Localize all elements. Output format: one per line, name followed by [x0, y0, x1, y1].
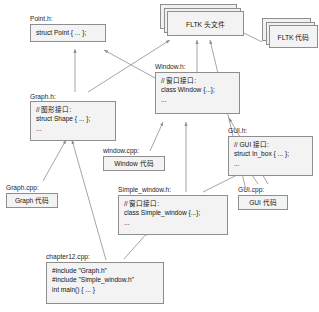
- simple-window-h-line-3: ...: [124, 218, 222, 227]
- fltk-headers-sheet-front: FLTK 头文件: [167, 11, 244, 36]
- chapter12-cpp-line-1: #include "Graph.h": [52, 266, 158, 275]
- gui-h-line-3: ...: [234, 159, 307, 168]
- gui-h-line-1: // GUI 接口:: [234, 140, 307, 149]
- gui-h-line-2: struct In_box { ... };: [234, 149, 307, 158]
- arrow-chapter12-to-graph-h: [72, 140, 106, 260]
- node-point-h[interactable]: struct Point { ... };: [30, 24, 106, 42]
- gui-cpp-line-1: GUI 代码: [249, 198, 277, 207]
- node-window-cpp[interactable]: Window 代码: [103, 156, 165, 171]
- simple-window-h-line-2: class Simple_window {...};: [124, 208, 222, 217]
- node-fltk-headers[interactable]: FLTK 头文件: [160, 4, 244, 36]
- caption-window-h: Window.h:: [155, 63, 186, 70]
- arrow-chapter12-to-simple-window-h: [124, 232, 148, 259]
- chapter12-cpp-line-3: int main() { ... }: [52, 285, 158, 294]
- window-h-line-3: ...: [161, 95, 234, 104]
- node-gui-h[interactable]: // GUI 接口: struct In_box { ... }; ...: [228, 136, 313, 176]
- caption-gui-cpp: GUI.cpp:: [238, 186, 264, 193]
- arrow-window-cpp-to-window-h: [150, 122, 163, 151]
- graph-h-line-2: struct Shape { ... };: [36, 114, 110, 123]
- fltk-code-sheet-front: FLTK 代码: [269, 25, 318, 48]
- node-fltk-code[interactable]: FLTK 代码: [262, 18, 318, 50]
- caption-window-cpp: window.cpp:: [103, 147, 139, 154]
- fltk-code-label: FLTK 代码: [277, 32, 309, 42]
- point-h-line-1: struct Point { ... };: [36, 28, 100, 37]
- node-gui-cpp[interactable]: GUI 代码: [238, 195, 288, 210]
- node-graph-h[interactable]: // 图形接口: struct Shape { ... }; ...: [30, 101, 116, 141]
- caption-simple-window-h: Simple_window.h:: [118, 186, 171, 193]
- caption-gui-h: GUI.h:: [228, 127, 247, 134]
- node-graph-cpp[interactable]: Graph 代码: [6, 193, 58, 208]
- node-chapter12-cpp[interactable]: #include "Graph.h" #include "Simple_wind…: [46, 262, 164, 304]
- arrow-window-h-to-point-h: [104, 50, 155, 78]
- caption-chapter12-cpp: chapter12.cpp:: [46, 253, 90, 260]
- graph-h-line-1: // 图形接口:: [36, 105, 110, 114]
- window-h-line-1: // 窗口接口:: [161, 76, 234, 85]
- diagram-canvas: Point.h: struct Point { ... }; Graph.h: …: [0, 0, 319, 312]
- caption-graph-h: Graph.h:: [30, 93, 56, 100]
- window-h-line-2: class Window {...};: [161, 85, 234, 94]
- graph-cpp-line-1: Graph 代码: [15, 196, 49, 205]
- simple-window-h-line-1: // 窗口接口:: [124, 199, 222, 208]
- window-cpp-line-1: Window 代码: [114, 159, 153, 168]
- node-simple-window-h[interactable]: // 窗口接口: class Simple_window {...}; ...: [118, 195, 228, 235]
- caption-graph-cpp: Graph.cpp:: [6, 184, 39, 191]
- node-window-h[interactable]: // 窗口接口: class Window {...}; ...: [155, 72, 240, 114]
- fltk-headers-label: FLTK 头文件: [186, 19, 225, 29]
- graph-h-line-3: ...: [36, 124, 110, 133]
- chapter12-cpp-line-2: #include "Simple_window.h": [52, 275, 158, 284]
- arrow-graph-cpp-to-graph-h: [43, 140, 66, 181]
- caption-point-h: Point.h:: [30, 15, 53, 22]
